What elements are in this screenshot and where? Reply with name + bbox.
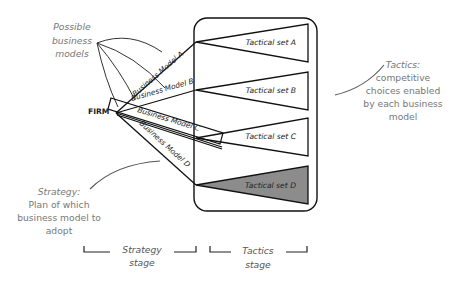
tactical-set-d: Tactical set D — [196, 166, 308, 204]
strategy-stage-label: Strategy stage — [122, 244, 162, 268]
tactical-set-b: Tactical set B — [196, 72, 308, 110]
svg-text:Strategy: Strategy — [122, 244, 162, 255]
strategy-annotation: Strategy: Plan of which business model t… — [17, 186, 101, 236]
svg-text:choices enabled: choices enabled — [366, 85, 440, 96]
svg-text:models: models — [55, 48, 89, 59]
business-model-diagram: Tactical set A Tactical set B Tactical s… — [0, 0, 459, 281]
svg-text:business model to: business model to — [17, 212, 101, 223]
svg-text:adopt: adopt — [46, 225, 73, 236]
svg-text:stage: stage — [245, 259, 271, 270]
possible-models-label: Possible business models — [52, 21, 92, 59]
svg-text:Tactics:: Tactics: — [386, 59, 420, 70]
svg-text:Plan of which: Plan of which — [28, 199, 89, 210]
svg-text:stage: stage — [129, 257, 155, 268]
strategy-pointer-curve — [90, 161, 160, 189]
svg-text:model: model — [389, 111, 418, 122]
svg-text:business: business — [52, 35, 92, 46]
tactical-set-d-label: Tactical set D — [245, 181, 296, 190]
svg-text:Tactics: Tactics — [242, 245, 274, 256]
tactical-set-b-label: Tactical set B — [246, 86, 296, 95]
firm-label: FIRM — [88, 107, 109, 116]
tactics-stage-label: Tactics stage — [242, 245, 274, 270]
tactical-set-c: Tactical set C — [196, 118, 308, 156]
svg-text:competitive: competitive — [376, 72, 431, 83]
svg-text:Possible: Possible — [53, 21, 91, 32]
svg-text:by each business: by each business — [363, 98, 443, 109]
tactical-set-a-label: Tactical set A — [246, 38, 296, 47]
tactics-annotation: Tactics: competitive choices enabled by … — [363, 59, 443, 122]
svg-text:Strategy:: Strategy: — [38, 186, 80, 197]
tactical-set-c-label: Tactical set C — [246, 132, 297, 141]
tactical-set-a: Tactical set A — [196, 24, 308, 62]
